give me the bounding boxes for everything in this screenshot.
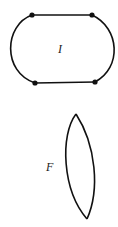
shape-i-vertices bbox=[29, 12, 97, 85]
diagram-canvas bbox=[0, 0, 118, 227]
shape-f-label: F bbox=[46, 161, 53, 173]
shape-i bbox=[11, 15, 115, 83]
vertex-dot bbox=[32, 80, 37, 85]
shape-i-right-arc bbox=[92, 15, 114, 82]
vertex-dot bbox=[89, 12, 94, 17]
shape-f bbox=[66, 114, 95, 219]
vertex-dot bbox=[92, 79, 97, 84]
shape-i-left-arc bbox=[11, 15, 35, 83]
shape-i-bottom-edge bbox=[35, 82, 95, 83]
vertex-dot bbox=[29, 12, 34, 17]
shape-i-label: I bbox=[58, 43, 62, 55]
shape-f-right-arc bbox=[76, 114, 95, 219]
